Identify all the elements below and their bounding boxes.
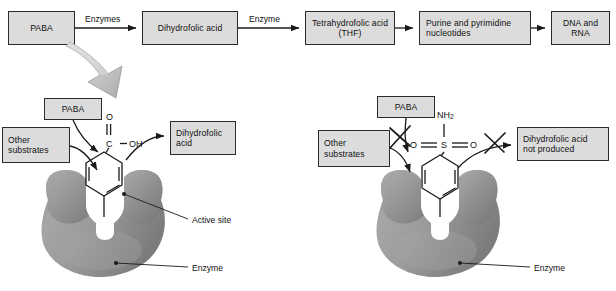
inhibited-product-arrow: [458, 145, 511, 168]
inhibited-block-x-product: [485, 133, 505, 153]
normal-product-arrow: [126, 136, 164, 160]
inhibited-paba-arrow: [405, 118, 408, 152]
emphasis-curved-arrow: [66, 42, 122, 98]
figure-root: PABA Dihydrofolic acid Tetrahydrofolic a…: [0, 0, 616, 291]
inhibited-enzyme-right-lobe: [453, 170, 497, 224]
inhibited-sulfonyl-bonds: [421, 124, 468, 156]
inhibited-panel-graphics: [377, 118, 530, 277]
inhibited-enzyme-left-lobe: [381, 170, 425, 224]
normal-panel-graphics: [42, 120, 188, 277]
normal-carboxyl-bonds: [106, 124, 127, 153]
normal-paba-arrow: [73, 120, 98, 152]
normal-enzyme-right-lobe: [118, 170, 162, 224]
inhibited-substrates-arrow: [390, 148, 410, 172]
diagram-vector-layer: [0, 0, 616, 291]
inhibited-block-x-paba: [390, 126, 410, 148]
normal-enzyme-left-lobe: [46, 170, 90, 224]
